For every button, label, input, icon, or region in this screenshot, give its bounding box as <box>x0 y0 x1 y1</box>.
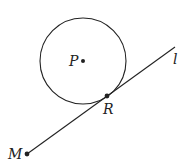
geometry-diagram: P R M l <box>0 0 188 168</box>
label-r: R <box>102 101 114 117</box>
label-p: P <box>68 53 79 69</box>
label-l: l <box>173 51 177 67</box>
label-m: M <box>7 146 23 162</box>
point-m-dot <box>25 152 30 157</box>
tangent-line-l <box>27 47 175 154</box>
point-r-dot <box>105 94 110 99</box>
point-p-dot <box>81 59 85 63</box>
